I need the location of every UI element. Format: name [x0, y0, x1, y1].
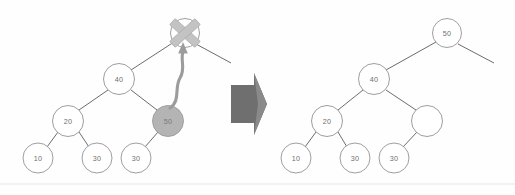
replacement-move-arrow-icon [170, 42, 188, 108]
before-node-50-highlighted: 50 [153, 106, 184, 137]
after-node-empty [412, 106, 443, 137]
bst-deletion-diagram: 70 40 20 50 [0, 0, 515, 195]
after-node-30-left: 30 [340, 143, 370, 173]
edge-40-20 [79, 90, 108, 110]
before-tree: 70 40 20 50 [23, 19, 231, 174]
after-node-30-right: 30 [379, 143, 409, 173]
after-node-20: 20 [312, 106, 343, 137]
edge-40-50 [131, 90, 157, 110]
node-label: 10 [34, 154, 42, 163]
edge-40-20 [338, 90, 363, 110]
edge-50-30-right [145, 132, 158, 147]
before-parent-stub-edge [196, 44, 231, 63]
node-label: 30 [132, 154, 140, 163]
after-tree: 50 40 20 10 30 [281, 19, 494, 174]
edge-40-empty [386, 90, 416, 110]
edge-70-40 [131, 42, 174, 70]
edge-20-10 [305, 132, 316, 147]
node-label: 10 [292, 154, 300, 163]
before-node-10: 10 [23, 143, 53, 173]
node-label: 40 [115, 75, 123, 84]
edge-20-10 [47, 132, 58, 147]
before-node-30-left: 30 [82, 143, 112, 173]
node-label: 30 [351, 154, 359, 163]
node-circle [412, 106, 443, 137]
node-label: 50 [443, 29, 451, 38]
after-node-50-root: 50 [433, 19, 462, 48]
node-label: 20 [64, 117, 72, 126]
node-label: 50 [164, 117, 172, 126]
node-label: 30 [390, 154, 398, 163]
node-label: 30 [93, 154, 101, 163]
node-label: 20 [323, 117, 331, 126]
edge-20-30-left [338, 132, 347, 147]
edge-20-30-left [79, 132, 89, 147]
edge-empty-30-right [403, 132, 417, 147]
before-node-20: 20 [53, 106, 84, 137]
before-node-30-right: 30 [121, 143, 151, 173]
transition-block-arrow-icon [231, 73, 267, 135]
edge-50-40 [386, 42, 436, 70]
before-node-40: 40 [104, 64, 135, 95]
figure-canvas: 70 40 20 50 [0, 0, 515, 195]
after-root-stub-edge [458, 44, 494, 63]
after-node-40: 40 [359, 64, 390, 95]
after-node-10: 10 [281, 143, 311, 173]
node-label: 40 [370, 75, 378, 84]
